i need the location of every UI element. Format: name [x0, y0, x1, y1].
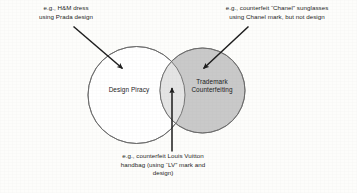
- venn-diagram: Design Piracy Trademark Counterfeiting e…: [0, 0, 357, 193]
- arrow-to-design-piracy: [74, 27, 123, 69]
- callout-design-piracy-text: e.g., H&M dress using Prada design: [14, 4, 118, 21]
- label-trademark-counterfeiting: Trademark Counterfeiting: [176, 78, 248, 95]
- callout-overlap-text: e.g., counterfeit Louis Vuitton handbag …: [93, 152, 233, 178]
- callout-trademark-counterfeiting-text: e.g., counterfeit “Chanel” sunglasses us…: [202, 4, 352, 21]
- label-design-piracy: Design Piracy: [95, 86, 163, 94]
